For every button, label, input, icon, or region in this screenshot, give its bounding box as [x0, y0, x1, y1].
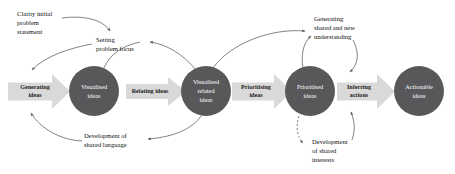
- annotation-shared-interests-line-2: interests: [312, 156, 334, 163]
- process-arrow-relating-ideas[interactable]: Relating ideas: [126, 77, 186, 106]
- annotation-generating-shared-line-0: Generating: [314, 15, 344, 22]
- curve-related-to-setting: [150, 42, 196, 70]
- annotation-shared-language-line-0: Development of: [84, 132, 127, 139]
- process-arrow-prioritising-ideas-line-0: Prioritising: [241, 84, 271, 90]
- node-visualised-related-ideas-line-2: ideas: [200, 96, 213, 103]
- annotation-generating-shared-line-1: shared and new: [314, 24, 355, 31]
- curve-related-to-generating-shared: [213, 31, 305, 68]
- node-actionable-ideas-line-0: Actionable: [405, 83, 433, 90]
- node-visualised-related-ideas-line-1: related: [197, 87, 215, 94]
- diagram-canvas: Generating ideas Relating ideas Prioriti…: [0, 0, 455, 174]
- annotation-shared-language-line-1: shared language: [84, 141, 127, 148]
- process-arrow-generating-ideas-line-0: Generating: [20, 84, 49, 90]
- annotation-setting-line-1: problem focus: [96, 45, 134, 52]
- annotation-shared-interests-line-0: Development: [312, 138, 348, 145]
- node-prioritised-ideas-line-1: ideas: [304, 92, 317, 99]
- annotation-setting-problem-focus: Setting problem focus: [96, 36, 134, 52]
- process-arrow-generating-ideas-line-1: ideas: [28, 92, 42, 98]
- annotation-clarity-initial-problem-statement: Clarity initial problem statement: [17, 10, 53, 35]
- annotation-clarity-line-1: problem: [17, 19, 40, 26]
- annotation-generating-shared-line-2: understanding: [314, 33, 352, 40]
- annotation-setting-line-0: Setting: [96, 36, 115, 43]
- node-prioritised-ideas[interactable]: Prioritised ideas: [285, 66, 335, 116]
- node-prioritised-ideas-line-0: Prioritised: [297, 83, 324, 90]
- curve-prioritised-up: [302, 36, 311, 68]
- annotation-clarity-line-2: statement: [17, 28, 42, 35]
- curve-shared-language-to-generating: [31, 113, 82, 141]
- node-actionable-ideas[interactable]: Actionable ideas: [394, 66, 444, 116]
- process-arrow-relating-ideas-line-0: Relating ideas: [132, 88, 169, 94]
- annotation-generating-shared-and-new-understanding: Generating shared and new understanding: [314, 15, 355, 40]
- annotation-clarity-line-0: Clarity initial: [17, 10, 53, 17]
- node-visualised-ideas[interactable]: Visualised ideas: [69, 66, 119, 116]
- process-arrow-prioritising-ideas[interactable]: Prioritising ideas: [232, 74, 292, 109]
- curve-setting-to-generating: [32, 44, 92, 70]
- annotation-development-of-shared-interests: Development of shared interests: [312, 138, 348, 163]
- node-visualised-related-ideas[interactable]: Visualised related ideas: [181, 66, 231, 116]
- annotation-shared-interests-line-1: of shared: [312, 147, 337, 154]
- curve-prioritised-to-shared-interests: [297, 116, 303, 143]
- process-arrow-inferring-actions-line-1: actions: [350, 92, 369, 98]
- curve-related-to-shared-language: [148, 116, 201, 139]
- node-visualised-ideas-line-0: Visualised: [81, 83, 108, 90]
- node-visualised-ideas-line-1: ideas: [88, 92, 101, 99]
- process-arrow-generating-ideas[interactable]: Generating ideas: [8, 74, 70, 109]
- curve-shared-interests-to-inferring: [351, 112, 354, 140]
- node-visualised-related-ideas-line-0: Visualised: [193, 78, 220, 85]
- process-arrow-prioritising-ideas-line-1: ideas: [249, 92, 263, 98]
- process-arrow-inferring-actions-line-0: Inferring: [347, 84, 371, 90]
- process-arrow-inferring-actions[interactable]: Inferring actions: [337, 74, 395, 109]
- annotation-development-of-shared-language: Development of shared language: [84, 132, 127, 148]
- process-diagram: Generating ideas Relating ideas Prioriti…: [0, 0, 455, 174]
- node-actionable-ideas-line-1: ideas: [413, 92, 426, 99]
- curve-understanding-to-inferring: [350, 40, 357, 72]
- curve-clarity-to-setting: [62, 17, 110, 31]
